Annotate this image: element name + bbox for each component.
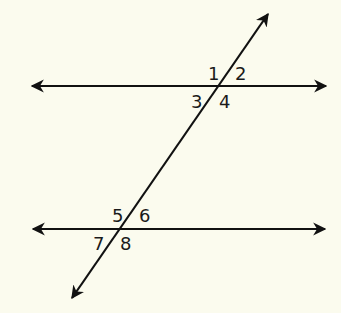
angle-label-3: 3 — [191, 91, 202, 112]
angle-label-4: 4 — [219, 91, 230, 112]
angle-label-7: 7 — [93, 233, 104, 254]
lines-group — [32, 14, 326, 298]
angle-label-1: 1 — [208, 63, 219, 84]
angle-label-6: 6 — [139, 205, 150, 226]
angle-label-5: 5 — [112, 205, 123, 226]
angle-label-8: 8 — [120, 233, 131, 254]
angle-label-2: 2 — [235, 63, 246, 84]
transversal — [72, 14, 268, 298]
angle-labels-group: 12345678 — [93, 63, 246, 254]
diagram-canvas: 12345678 — [0, 0, 341, 313]
diagram-svg: 12345678 — [0, 0, 341, 313]
